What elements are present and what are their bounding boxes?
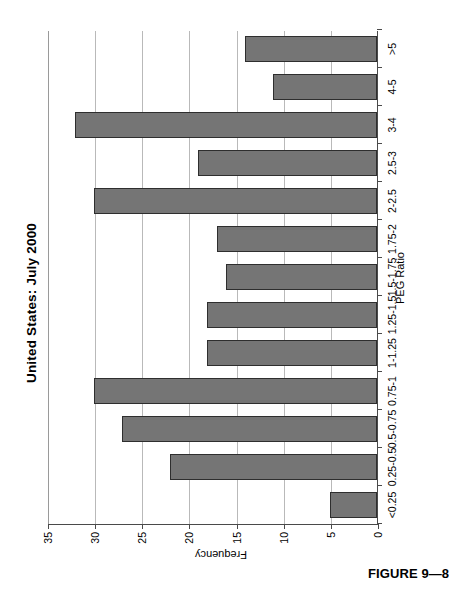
bar-slot xyxy=(48,74,377,99)
x-tick-mark xyxy=(377,143,382,144)
bar-slot xyxy=(48,454,377,479)
x-tick-mark xyxy=(377,485,382,486)
bar xyxy=(198,150,377,175)
x-tick-mark xyxy=(377,447,382,448)
x-tick-mark xyxy=(377,105,382,106)
bar xyxy=(330,492,377,517)
x-tick-mark xyxy=(377,523,382,524)
bar xyxy=(245,36,377,61)
bar-slot xyxy=(48,340,377,365)
x-tick-mark xyxy=(377,219,382,220)
bar-slot xyxy=(48,302,377,327)
y-tick-mark xyxy=(284,524,285,529)
y-tick-label: 10 xyxy=(278,532,290,544)
y-tick-mark xyxy=(237,524,238,529)
plot-wrapper: Frequency 05101520253035 <0.250.25-0.50.… xyxy=(22,19,420,587)
x-axis-title: PEG Ratio xyxy=(394,31,406,525)
bar-slot xyxy=(48,492,377,517)
figure-caption: FIGURE 9—8 xyxy=(368,566,449,581)
bar xyxy=(207,302,377,327)
x-tick-mark xyxy=(377,181,382,182)
x-tick-mark xyxy=(377,257,382,258)
x-tick-mark xyxy=(377,371,382,372)
y-tick-mark xyxy=(142,524,143,529)
bar xyxy=(94,188,377,213)
y-tick-label: 35 xyxy=(42,532,54,544)
bar xyxy=(94,378,377,403)
y-tick-label: 25 xyxy=(136,532,148,544)
y-tick-mark xyxy=(95,524,96,529)
bars-layer xyxy=(48,31,377,524)
bar-slot xyxy=(48,150,377,175)
bar-slot xyxy=(48,36,377,61)
bar-slot xyxy=(48,226,377,251)
bar xyxy=(226,264,377,289)
x-tick-mark xyxy=(377,67,382,68)
bar-slot xyxy=(48,378,377,403)
x-tick-mark xyxy=(377,409,382,410)
y-tick-mark xyxy=(378,524,379,529)
y-tick-mark xyxy=(48,524,49,529)
bar-slot xyxy=(48,264,377,289)
x-tick-mark xyxy=(377,333,382,334)
y-tick-mark xyxy=(331,524,332,529)
y-tick-label: 20 xyxy=(183,532,195,544)
x-tick-mark xyxy=(377,295,382,296)
rotated-chart-stage: United States: July 2000 Frequency 05101… xyxy=(22,19,420,587)
y-axis-title: Frequency xyxy=(195,549,247,561)
y-tick-label: 5 xyxy=(325,532,337,538)
y-tick-mark xyxy=(189,524,190,529)
y-tick-label: 0 xyxy=(372,532,384,538)
bar xyxy=(217,226,377,251)
x-tick-mark xyxy=(377,29,382,30)
bar xyxy=(273,74,377,99)
bar-slot xyxy=(48,416,377,441)
y-tick-label: 15 xyxy=(231,532,243,544)
bar xyxy=(75,112,377,137)
plot-area: 05101520253035 <0.250.25-0.50.5-0.750.75… xyxy=(48,31,378,525)
bar-slot xyxy=(48,112,377,137)
bar xyxy=(122,416,377,441)
bar-slot xyxy=(48,188,377,213)
y-tick-label: 30 xyxy=(89,532,101,544)
bar xyxy=(207,340,377,365)
bar xyxy=(170,454,377,479)
